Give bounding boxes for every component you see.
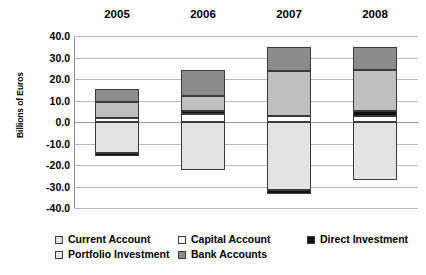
legend-label-capital-account: Capital Account	[191, 234, 271, 245]
bar-segment[interactable]	[353, 122, 397, 180]
bar-segment[interactable]	[95, 102, 139, 118]
legend-item-direct-investment[interactable]: Direct Investment	[307, 234, 408, 245]
stacked-bar-chart: Billions of Euros 40.030.020.010.00.0-10…	[0, 0, 426, 275]
chart-legend: Current AccountCapital AccountDirect Inv…	[55, 234, 415, 264]
legend-swatch-bank-accounts	[178, 251, 186, 259]
bar-segment[interactable]	[353, 47, 397, 71]
bar-segment[interactable]	[95, 153, 139, 156]
bar-segment[interactable]	[267, 71, 311, 115]
y-axis-tick-label: 0.0	[22, 117, 70, 127]
bar-group-2005[interactable]	[95, 36, 139, 208]
legend-item-capital-account[interactable]: Capital Account	[178, 234, 271, 245]
legend-item-current-account[interactable]: Current Account	[55, 234, 150, 245]
bar-segment[interactable]	[95, 122, 139, 153]
legend-item-portfolio-investment[interactable]: Portfolio Investment	[55, 249, 170, 260]
x-axis-category-labels: 2005200620072008	[74, 8, 418, 28]
legend-item-bank-accounts[interactable]: Bank Accounts	[178, 249, 267, 260]
bar-segment[interactable]	[267, 190, 311, 194]
bar-segment[interactable]	[353, 70, 397, 111]
x-axis-label-2008: 2008	[345, 8, 405, 20]
y-axis-tick-label: 30.0	[22, 53, 70, 63]
bar-segment[interactable]	[353, 111, 397, 115]
legend-swatch-portfolio-investment	[55, 251, 63, 259]
bar-segment[interactable]	[267, 122, 311, 190]
legend-label-current-account: Current Account	[68, 234, 150, 245]
x-axis-label-2005: 2005	[87, 8, 147, 20]
x-axis-label-2007: 2007	[259, 8, 319, 20]
bar-group-2008[interactable]	[353, 36, 397, 208]
bar-segment[interactable]	[181, 70, 225, 96]
y-axis-tick-label: -40.0	[22, 203, 70, 213]
legend-label-bank-accounts: Bank Accounts	[191, 249, 267, 260]
bar-group-2006[interactable]	[181, 36, 225, 208]
bar-segment[interactable]	[95, 89, 139, 102]
legend-label-portfolio-investment: Portfolio Investment	[68, 249, 170, 260]
legend-swatch-current-account	[55, 236, 63, 244]
gridline	[74, 208, 418, 209]
legend-swatch-direct-investment	[307, 236, 315, 244]
y-axis-tick-label: 10.0	[22, 96, 70, 106]
x-axis-label-2006: 2006	[173, 8, 233, 20]
legend-row-1: Current AccountCapital AccountDirect Inv…	[55, 234, 415, 249]
bar-segment[interactable]	[181, 111, 225, 114]
bar-segment[interactable]	[267, 116, 311, 122]
plot-area	[74, 36, 418, 208]
bar-segment[interactable]	[181, 114, 225, 122]
bar-segment[interactable]	[267, 47, 311, 72]
bar-group-2007[interactable]	[267, 36, 311, 208]
legend-row-2: Portfolio InvestmentBank Accounts	[55, 249, 415, 264]
bar-segment[interactable]	[95, 118, 139, 122]
y-axis-tick-label: 40.0	[22, 31, 70, 41]
bar-segment[interactable]	[181, 122, 225, 170]
y-axis-tick-label: -10.0	[22, 139, 70, 149]
bar-segment[interactable]	[353, 116, 397, 122]
legend-swatch-capital-account	[178, 236, 186, 244]
y-axis-tick-label: -20.0	[22, 160, 70, 170]
y-axis-tick-label: -30.0	[22, 182, 70, 192]
bar-segment[interactable]	[181, 96, 225, 111]
legend-label-direct-investment: Direct Investment	[320, 234, 408, 245]
y-axis-tick-label: 20.0	[22, 74, 70, 84]
